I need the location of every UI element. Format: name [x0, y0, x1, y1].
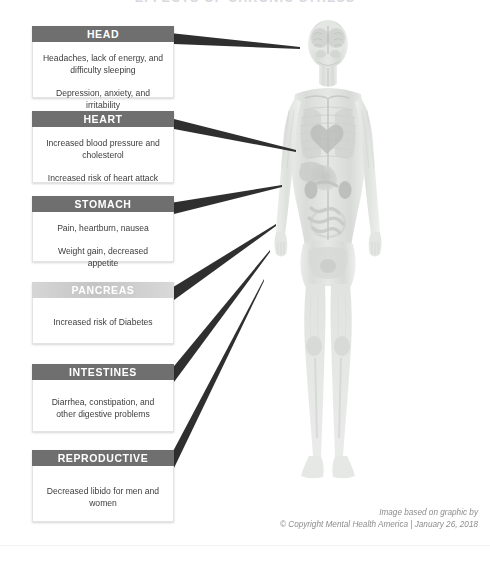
- panel-heart-line-2: Increased risk of heart attack: [42, 172, 164, 184]
- panel-heart-line-1: Increased blood pressure and cholesterol: [42, 137, 164, 161]
- panel-stomach-line-1: Pain, heartburn, nausea: [42, 222, 164, 234]
- panel-head-body: Headaches, lack of energy, and difficult…: [33, 42, 173, 121]
- panel-stomach-header: STOMACH: [32, 196, 174, 212]
- panel-head-header: HEAD: [32, 26, 174, 42]
- panel-head-line-2: Depression, anxiety, and irritability: [42, 87, 164, 111]
- panel-pancreas-header: PANCREAS: [32, 282, 174, 298]
- panel-pancreas-body: Increased risk of Diabetes: [33, 298, 173, 338]
- panel-pancreas-line-1: Increased risk of Diabetes: [42, 316, 164, 328]
- credit-line-2: © Copyright Mental Health America | Janu…: [218, 519, 478, 531]
- credit-block: Image based on graphic by © Copyright Me…: [218, 507, 478, 530]
- bottom-divider: [0, 545, 490, 546]
- panel-stomach[interactable]: STOMACH Pain, heartburn, nausea Weight g…: [32, 196, 174, 262]
- page-title: EFFECTS OF CHRONIC STRESS: [0, 0, 490, 5]
- credit-line-1: Image based on graphic by: [218, 507, 478, 519]
- panel-stomach-body: Pain, heartburn, nausea Weight gain, dec…: [33, 212, 173, 279]
- panel-reproductive-header: REPRODUCTIVE ORGANS: [32, 450, 174, 466]
- panel-heart-body: Increased blood pressure and cholesterol…: [33, 127, 173, 194]
- panel-head[interactable]: HEAD Headaches, lack of energy, and diff…: [32, 26, 174, 98]
- panel-intestines-header: INTESTINES: [32, 364, 174, 380]
- panel-intestines[interactable]: INTESTINES Diarrhea, constipation, and o…: [32, 364, 174, 432]
- anatomical-body-illustration: [243, 18, 413, 513]
- panel-heart-header: HEART: [32, 111, 174, 127]
- panel-pancreas[interactable]: PANCREAS Increased risk of Diabetes: [32, 282, 174, 344]
- panel-reproductive[interactable]: REPRODUCTIVE ORGANS Decreased libido for…: [32, 450, 174, 522]
- page-title-clipped: EFFECTS OF CHRONIC STRESS: [0, 0, 490, 5]
- panel-stomach-line-2: Weight gain, decreased appetite: [42, 245, 164, 269]
- panel-heart[interactable]: HEART Increased blood pressure and chole…: [32, 111, 174, 183]
- panel-intestines-line-1: Diarrhea, constipation, and other digest…: [42, 396, 164, 420]
- panel-reproductive-line-1: Decreased libido for men and women: [42, 485, 164, 509]
- panel-head-line-1: Headaches, lack of energy, and difficult…: [42, 52, 164, 76]
- panel-intestines-body: Diarrhea, constipation, and other digest…: [33, 380, 173, 430]
